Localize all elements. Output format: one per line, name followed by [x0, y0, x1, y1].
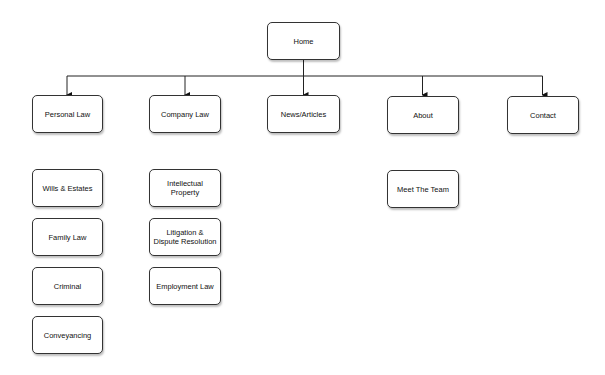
node-meet-the-team[interactable]: Meet The Team [387, 170, 459, 208]
node-label: Employment Law [156, 282, 214, 291]
node-label: Meet The Team [397, 185, 449, 194]
node-wills-estates[interactable]: Wills & Estates [32, 169, 103, 207]
node-company-law[interactable]: Company Law [149, 95, 221, 133]
node-criminal[interactable]: Criminal [32, 267, 103, 305]
node-label: News/Articles [281, 110, 326, 119]
node-label: Criminal [54, 282, 82, 291]
node-label: Conveyancing [44, 331, 92, 340]
node-conveyancing[interactable]: Conveyancing [32, 316, 103, 354]
node-litigation-dispute-resolution[interactable]: Litigation & Dispute Resolution [149, 218, 221, 256]
node-label: Litigation & Dispute Resolution [153, 228, 217, 246]
node-label: Intellectual Property [153, 179, 217, 197]
node-label: Home [293, 37, 313, 46]
node-label: About [413, 111, 433, 120]
node-about[interactable]: About [387, 96, 459, 134]
node-employment-law[interactable]: Employment Law [149, 267, 221, 305]
node-contact[interactable]: Contact [507, 96, 579, 134]
node-personal-law[interactable]: Personal Law [32, 95, 103, 133]
node-news-articles[interactable]: News/Articles [267, 95, 340, 133]
node-label: Contact [530, 111, 556, 120]
node-label: Personal Law [45, 110, 90, 119]
node-label: Wills & Estates [42, 184, 92, 193]
node-label: Family Law [49, 233, 87, 242]
node-family-law[interactable]: Family Law [32, 218, 103, 256]
node-intellectual-property[interactable]: Intellectual Property [149, 169, 221, 207]
node-label: Company Law [161, 110, 209, 119]
node-home[interactable]: Home [267, 22, 340, 60]
